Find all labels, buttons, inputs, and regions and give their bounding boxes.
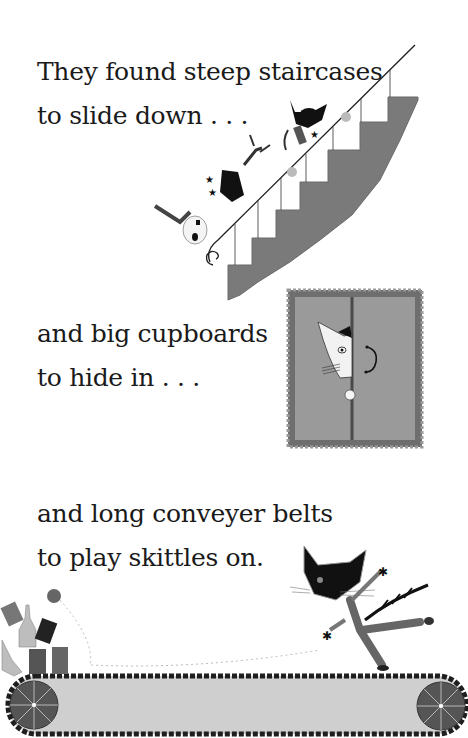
cupboard-illustration [288,290,422,447]
cat-sliding-bottom [155,206,207,244]
staircase-illustration: ★ ★ ★ [155,45,418,300]
illustrations: ★ ★ ★ [0,0,468,738]
svg-text:★: ★ [205,174,214,185]
svg-text:✱: ✱ [378,565,388,579]
wheel-left [10,681,58,729]
ball [47,589,61,603]
cat-sliding-middle: ★ ★ [205,135,270,202]
cat-kicking: ✱ ✱ [290,546,434,671]
conveyor-belt-illustration: ✱ ✱ [1,546,466,734]
svg-text:★: ★ [208,187,217,198]
skittles [1,602,68,676]
cat-sliding-top: ★ [284,100,327,150]
svg-text:★: ★ [310,129,319,140]
svg-text:✱: ✱ [322,629,332,643]
wheel-right [417,682,465,730]
